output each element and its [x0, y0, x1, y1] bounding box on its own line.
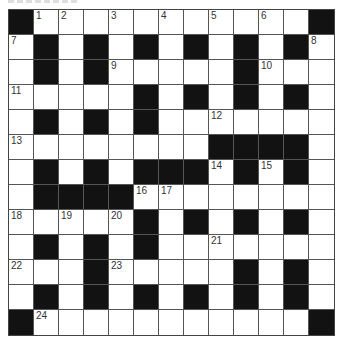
- grid-cell[interactable]: [209, 35, 234, 60]
- grid-cell[interactable]: [284, 110, 309, 135]
- grid-cell[interactable]: [84, 85, 109, 110]
- grid-cell[interactable]: 13: [9, 135, 34, 160]
- grid-cell[interactable]: [234, 310, 259, 335]
- grid-cell[interactable]: [159, 110, 184, 135]
- grid-cell[interactable]: [209, 285, 234, 310]
- grid-cell[interactable]: [259, 35, 284, 60]
- grid-cell[interactable]: [109, 110, 134, 135]
- grid-cell[interactable]: [109, 160, 134, 185]
- grid-cell[interactable]: [59, 35, 84, 60]
- grid-cell[interactable]: [59, 160, 84, 185]
- grid-cell[interactable]: [184, 135, 209, 160]
- grid-cell[interactable]: [109, 310, 134, 335]
- grid-cell[interactable]: [59, 110, 84, 135]
- grid-cell[interactable]: [109, 85, 134, 110]
- grid-cell[interactable]: 9: [109, 60, 134, 85]
- grid-cell[interactable]: 23: [109, 260, 134, 285]
- grid-cell[interactable]: [109, 235, 134, 260]
- grid-cell[interactable]: [259, 185, 284, 210]
- grid-cell[interactable]: [159, 260, 184, 285]
- grid-cell[interactable]: 2: [59, 10, 84, 35]
- grid-cell[interactable]: [59, 285, 84, 310]
- grid-cell[interactable]: [9, 160, 34, 185]
- grid-cell[interactable]: [59, 60, 84, 85]
- grid-cell[interactable]: [259, 285, 284, 310]
- grid-cell[interactable]: [159, 60, 184, 85]
- grid-cell[interactable]: [209, 60, 234, 85]
- grid-cell[interactable]: [184, 60, 209, 85]
- grid-cell[interactable]: 15: [259, 160, 284, 185]
- grid-cell[interactable]: [259, 85, 284, 110]
- grid-cell[interactable]: [209, 310, 234, 335]
- grid-cell[interactable]: [9, 185, 34, 210]
- grid-cell[interactable]: 8: [309, 35, 334, 60]
- grid-cell[interactable]: [34, 210, 59, 235]
- grid-cell[interactable]: [159, 310, 184, 335]
- grid-cell[interactable]: [309, 110, 334, 135]
- grid-cell[interactable]: [34, 135, 59, 160]
- grid-cell[interactable]: [184, 110, 209, 135]
- grid-cell[interactable]: [84, 135, 109, 160]
- grid-cell[interactable]: [309, 85, 334, 110]
- grid-cell[interactable]: [259, 310, 284, 335]
- grid-cell[interactable]: [284, 310, 309, 335]
- grid-cell[interactable]: 6: [259, 10, 284, 35]
- grid-cell[interactable]: [309, 260, 334, 285]
- grid-cell[interactable]: [209, 185, 234, 210]
- grid-cell[interactable]: [184, 310, 209, 335]
- grid-cell[interactable]: [59, 235, 84, 260]
- grid-cell[interactable]: [9, 110, 34, 135]
- grid-cell[interactable]: 21: [209, 235, 234, 260]
- grid-cell[interactable]: [209, 85, 234, 110]
- grid-cell[interactable]: [134, 10, 159, 35]
- grid-cell[interactable]: [309, 135, 334, 160]
- grid-cell[interactable]: [284, 60, 309, 85]
- grid-cell[interactable]: [159, 285, 184, 310]
- grid-cell[interactable]: [284, 10, 309, 35]
- grid-cell[interactable]: [9, 285, 34, 310]
- grid-cell[interactable]: [59, 85, 84, 110]
- grid-cell[interactable]: 11: [9, 85, 34, 110]
- grid-cell[interactable]: [59, 260, 84, 285]
- grid-cell[interactable]: [109, 35, 134, 60]
- grid-cell[interactable]: 14: [209, 160, 234, 185]
- grid-cell[interactable]: [259, 260, 284, 285]
- grid-cell[interactable]: [309, 185, 334, 210]
- grid-cell[interactable]: [259, 235, 284, 260]
- grid-cell[interactable]: 3: [109, 10, 134, 35]
- grid-cell[interactable]: [9, 235, 34, 260]
- grid-cell[interactable]: 24: [34, 310, 59, 335]
- grid-cell[interactable]: 20: [109, 210, 134, 235]
- grid-cell[interactable]: [84, 10, 109, 35]
- grid-cell[interactable]: 16: [134, 185, 159, 210]
- grid-cell[interactable]: [234, 235, 259, 260]
- grid-cell[interactable]: [84, 310, 109, 335]
- grid-cell[interactable]: [284, 235, 309, 260]
- grid-cell[interactable]: [209, 260, 234, 285]
- grid-cell[interactable]: [159, 35, 184, 60]
- grid-cell[interactable]: [9, 60, 34, 85]
- grid-cell[interactable]: [109, 285, 134, 310]
- grid-cell[interactable]: [284, 185, 309, 210]
- grid-cell[interactable]: [34, 260, 59, 285]
- grid-cell[interactable]: [184, 185, 209, 210]
- grid-cell[interactable]: 22: [9, 260, 34, 285]
- grid-cell[interactable]: [59, 310, 84, 335]
- grid-cell[interactable]: 19: [59, 210, 84, 235]
- grid-cell[interactable]: 5: [209, 10, 234, 35]
- grid-cell[interactable]: [134, 135, 159, 160]
- grid-cell[interactable]: 18: [9, 210, 34, 235]
- grid-cell[interactable]: 4: [159, 10, 184, 35]
- grid-cell[interactable]: [134, 60, 159, 85]
- grid-cell[interactable]: [59, 135, 84, 160]
- grid-cell[interactable]: 12: [209, 110, 234, 135]
- grid-cell[interactable]: [159, 135, 184, 160]
- grid-cell[interactable]: [259, 110, 284, 135]
- grid-cell[interactable]: [209, 210, 234, 235]
- grid-cell[interactable]: 7: [9, 35, 34, 60]
- grid-cell[interactable]: [309, 160, 334, 185]
- grid-cell[interactable]: [309, 235, 334, 260]
- grid-cell[interactable]: [34, 85, 59, 110]
- grid-cell[interactable]: [134, 260, 159, 285]
- grid-cell[interactable]: [234, 110, 259, 135]
